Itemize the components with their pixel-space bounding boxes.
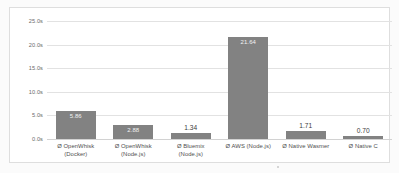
bar-openwhisk-nodejs[interactable]: 2.88	[113, 125, 153, 139]
bar-value-label-aws-nodejs: 21.64	[228, 39, 268, 45]
x-axis-labels: Ø OpenWhisk (Docker) Ø OpenWhisk (Node.j…	[47, 142, 392, 166]
y-tick-label-20: 20.0s	[29, 42, 43, 48]
x-tick-aws-nodejs-line1: Ø AWS (Node.js)	[220, 142, 278, 150]
bar-native-c[interactable]	[343, 136, 383, 139]
bar-slot-native-c: 0.70	[335, 21, 393, 139]
bar-value-label-bluemix-nodejs: 1.34	[184, 124, 197, 131]
y-tick-label-5: 5.0s	[32, 112, 43, 118]
x-tick-openwhisk-nodejs-line2: (Node.js)	[105, 150, 163, 158]
bar-value-label-openwhisk-docker: 5.86	[56, 113, 96, 119]
bar-value-label-openwhisk-nodejs: 2.88	[113, 127, 153, 133]
x-tick-openwhisk-docker-line2: (Docker)	[47, 150, 105, 158]
bar-slot-native-wasmer: 1.71	[277, 21, 335, 139]
y-tick-label-15: 15.0s	[29, 65, 43, 71]
bar-bluemix-nodejs[interactable]	[171, 133, 211, 139]
x-tick-aws-nodejs: Ø AWS (Node.js)	[220, 142, 278, 150]
x-tick-native-c: Ø Native C	[335, 142, 393, 150]
y-tick-label-25: 25.0s	[29, 18, 43, 24]
y-tick-label-10: 10.0s	[29, 89, 43, 95]
bars-layer: 5.86 2.88 1.34 21.64 1.71	[47, 21, 392, 139]
x-tick-native-c-line1: Ø Native C	[335, 142, 393, 150]
bar-native-wasmer[interactable]	[286, 131, 326, 139]
x-tick-bluemix-nodejs-line2: (Node.js)	[162, 150, 220, 158]
x-tick-native-wasmer: Ø Native Wasmer	[277, 142, 335, 150]
x-tick-openwhisk-nodejs-line1: Ø OpenWhisk	[105, 142, 163, 150]
bar-value-label-native-wasmer: 1.71	[299, 122, 312, 129]
bar-value-label-native-c: 0.70	[357, 127, 370, 134]
x-tick-bluemix-nodejs: Ø Bluemix (Node.js)	[162, 142, 220, 159]
bar-slot-openwhisk-nodejs: 2.88	[105, 21, 163, 139]
bar-slot-bluemix-nodejs: 1.34	[162, 21, 220, 139]
y-tick-label-0: 0.0s	[32, 136, 43, 142]
gridline-0-baseline: 0.0s	[47, 139, 392, 140]
x-tick-bluemix-nodejs-line1: Ø Bluemix	[162, 142, 220, 150]
x-tick-openwhisk-nodejs: Ø OpenWhisk (Node.js)	[105, 142, 163, 159]
x-tick-native-wasmer-line1: Ø Native Wasmer	[277, 142, 335, 150]
chart-figure: 25.0s 20.0s 15.0s 10.0s 5.0s 0.0s 5.86	[0, 0, 399, 173]
bar-aws-nodejs[interactable]: 21.64	[228, 37, 268, 139]
bar-slot-openwhisk-docker: 5.86	[47, 21, 105, 139]
bar-openwhisk-docker[interactable]: 5.86	[56, 111, 96, 139]
x-tick-openwhisk-docker-line1: Ø OpenWhisk	[47, 142, 105, 150]
chart-frame: 25.0s 20.0s 15.0s 10.0s 5.0s 0.0s 5.86	[9, 7, 390, 163]
x-tick-openwhisk-docker: Ø OpenWhisk (Docker)	[47, 142, 105, 159]
bar-slot-aws-nodejs: 21.64	[220, 21, 278, 139]
scan-artifact-speck	[277, 166, 279, 168]
